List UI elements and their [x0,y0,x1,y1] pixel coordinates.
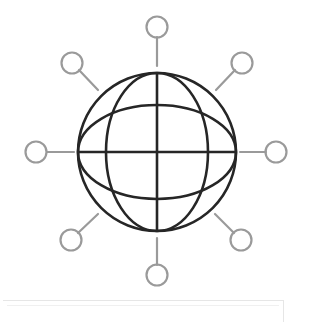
node-circle-bottom-left [61,230,82,251]
globe-network-figure [0,0,317,322]
connector-line-top-right [216,70,235,90]
node-circle-left [26,142,47,163]
connector-line-top-left [79,70,98,90]
node-circle-bottom [147,265,168,286]
node-circle-top-left [62,53,83,74]
connector-line-bottom-left [78,214,98,233]
node-circle-top [147,17,168,38]
node-circle-top-right [232,53,253,74]
globe-network-icon [0,0,317,322]
connector-line-bottom-right [215,214,234,233]
caption-divider [7,305,279,306]
globe-icon [78,73,236,231]
node-circle-bottom-right [231,230,252,251]
caption-box [3,300,284,322]
node-circle-right [266,142,287,163]
